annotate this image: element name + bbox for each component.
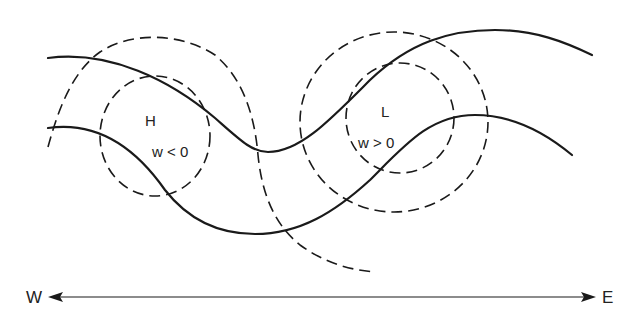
high-label: H [145, 112, 156, 129]
diagram-canvas: H w < 0 L w > 0 W E [0, 0, 632, 319]
high-outer-contour [48, 37, 375, 272]
low-inner-contour [346, 63, 454, 173]
east-label: E [602, 288, 613, 307]
low-label: L [381, 103, 389, 120]
west-label: W [26, 288, 42, 307]
low-condition: w > 0 [357, 134, 394, 151]
high-condition: w < 0 [151, 143, 188, 160]
upper-streamline [48, 30, 592, 152]
lower-streamline [48, 115, 572, 234]
